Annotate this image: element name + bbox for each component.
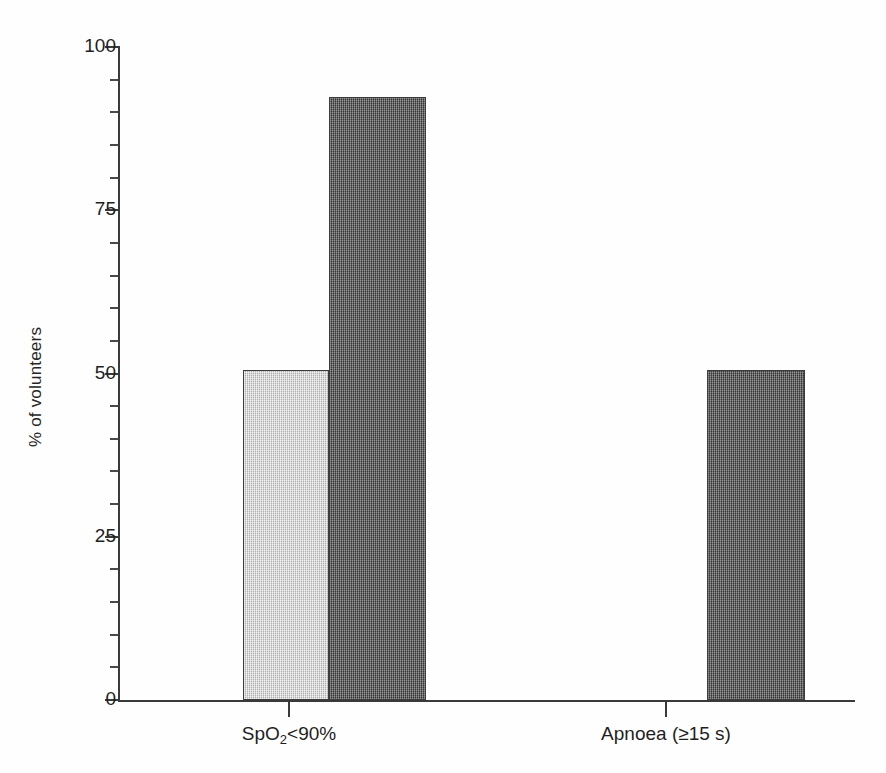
y-axis-title: % of volunteers <box>14 0 58 773</box>
y-tick-minor <box>110 601 118 603</box>
x-axis-line <box>118 700 855 702</box>
y-tick-label: 75 <box>46 198 116 220</box>
y-tick-label: 0 <box>46 688 116 710</box>
x-tick-label-0: SpO2<90% <box>159 723 419 747</box>
y-axis-title-text: % of volunteers <box>26 326 46 446</box>
y-tick-minor <box>110 634 118 636</box>
y-tick-minor <box>110 470 118 472</box>
x-tick <box>665 701 667 717</box>
y-tick-minor <box>110 177 118 179</box>
y-tick-minor <box>110 144 118 146</box>
y-tick-minor <box>110 307 118 309</box>
y-tick-minor <box>110 275 118 277</box>
bar-dark-series-0 <box>329 97 426 700</box>
bar-light-series-0 <box>243 370 329 700</box>
y-tick-minor <box>110 111 118 113</box>
y-tick-minor <box>110 79 118 81</box>
y-tick-label: 50 <box>46 362 116 384</box>
y-tick-minor <box>110 666 118 668</box>
bar-dark-series-1 <box>707 370 805 700</box>
y-tick-label: 25 <box>46 525 116 547</box>
plot-area: 0255075100 SpO2<90%Apnoea (≥15 s) <box>118 47 855 700</box>
y-tick-minor <box>110 242 118 244</box>
y-tick-minor <box>110 503 118 505</box>
x-tick <box>288 701 290 717</box>
y-tick-minor <box>110 568 118 570</box>
y-tick-label: 100 <box>46 35 116 57</box>
x-tick-label-1: Apnoea (≥15 s) <box>536 723 796 745</box>
y-tick-minor <box>110 340 118 342</box>
y-tick-minor <box>110 438 118 440</box>
bar-chart-figure: % of volunteers 0255075100 SpO2<90%Apnoe… <box>0 0 886 773</box>
y-axis-line <box>118 46 120 701</box>
y-tick-minor <box>110 405 118 407</box>
